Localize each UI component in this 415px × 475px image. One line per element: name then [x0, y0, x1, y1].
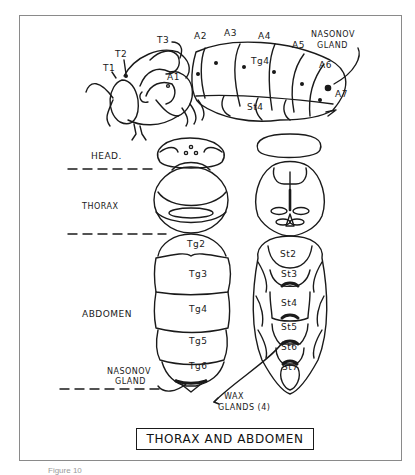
label-t3: T3 [157, 36, 169, 45]
label-st5: St5 [281, 323, 297, 332]
dorsal-view-illustration [154, 138, 230, 392]
label-a6: A6 [319, 61, 332, 70]
label-a4: A4 [258, 32, 271, 41]
label-a7: A7 [335, 90, 348, 99]
label-tg5: Tg5 [189, 337, 207, 346]
label-tg4-lateral: Tg4 [251, 57, 269, 66]
label-st6: St6 [281, 343, 297, 352]
label-tg2: Tg2 [187, 240, 205, 249]
label-tg6: Tg6 [189, 362, 207, 371]
label-st2: St2 [280, 250, 296, 259]
label-nasonov-dorsal-2: GLAND [115, 378, 146, 386]
label-a3: A3 [224, 29, 237, 38]
label-nasonov-lateral-1: NASONOV [311, 31, 355, 39]
label-head: HEAD. [91, 152, 122, 161]
figure-title-box: THORAX AND ABDOMEN [136, 428, 314, 450]
label-nasonov-lateral-2: GLAND [317, 42, 348, 50]
label-st7: St7 [282, 363, 298, 372]
label-st4: St4 [281, 299, 297, 308]
bee-anatomy-drawing [0, 0, 415, 475]
label-t1: T1 [103, 64, 115, 73]
label-a5: A5 [292, 41, 305, 50]
label-a2: A2 [194, 32, 207, 41]
label-a1: A1 [167, 73, 180, 82]
label-t2: T2 [115, 50, 127, 59]
label-nasonov-dorsal-1: NASONOV [107, 368, 151, 376]
figure-title: THORAX AND ABDOMEN [147, 432, 304, 446]
label-tg3: Tg3 [189, 270, 207, 279]
label-st3: St3 [281, 270, 297, 279]
label-st4-lateral: St4 [247, 103, 263, 112]
label-wax-2: GLANDS (4) [218, 404, 270, 412]
label-thorax: THORAX [82, 203, 118, 211]
label-tg4: Tg4 [189, 305, 207, 314]
label-abdomen: ABDOMEN [82, 310, 132, 319]
label-wax-1: WAX [224, 393, 244, 401]
figure-caption: Figure 10 [48, 466, 82, 475]
